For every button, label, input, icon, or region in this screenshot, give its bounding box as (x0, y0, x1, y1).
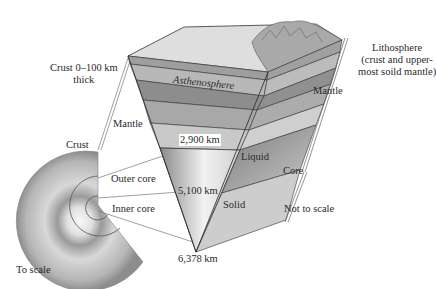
not-to-scale-label: Not to scale (284, 203, 334, 215)
earth-wedge (128, 21, 342, 252)
lithosphere-line1: Lithosphere (358, 42, 436, 54)
outer-core-label: Outer core (111, 173, 156, 185)
crust-thickness-label: Crust 0–100 km thick (50, 62, 118, 86)
depth-6378-label: 6,378 km (178, 253, 218, 265)
lithosphere-line3: most soild mantle) (358, 66, 436, 78)
liquid-label: Liquid (241, 151, 269, 163)
depth-2900-label: 2,900 km (179, 134, 221, 146)
core-label: Core (283, 165, 303, 177)
lithosphere-label: Lithosphere (crust and upper- most soild… (358, 42, 436, 78)
inner-core-label: Inner core (112, 203, 155, 215)
crust-thickness-line1: Crust 0–100 km (50, 62, 118, 74)
depth-5100-label: 5,100 km (178, 185, 218, 197)
solid-label: Solid (223, 199, 245, 211)
lithosphere-line2: (crust and upper- (358, 54, 436, 66)
to-scale-label: To scale (16, 264, 51, 276)
crust-thickness-line2: thick (50, 74, 118, 86)
crust-label: Crust (66, 139, 89, 151)
mantle-right-label: Mantle (313, 85, 343, 97)
mantle-left-label: Mantle (113, 118, 143, 130)
